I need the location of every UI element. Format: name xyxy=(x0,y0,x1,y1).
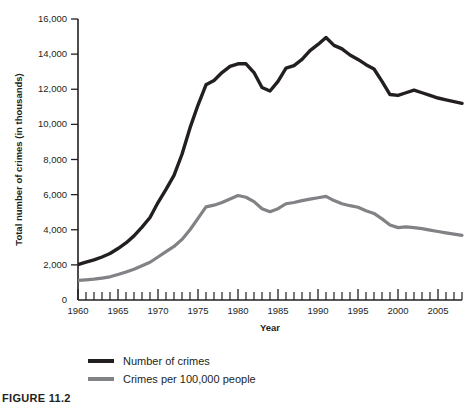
y-tick-label: 0 xyxy=(62,294,67,305)
figure-root: 02,0004,0006,0008,00010,00012,00014,0001… xyxy=(0,0,476,404)
line-chart: 02,0004,0006,0008,00010,00012,00014,0001… xyxy=(0,0,476,340)
y-axis-title: Total number of crimes (in thousands) xyxy=(13,73,24,245)
legend-item-crimes-per-100000: Crimes per 100,000 people xyxy=(88,370,428,388)
x-tick-label: 2005 xyxy=(427,305,448,316)
x-axis-title: Year xyxy=(260,322,280,333)
x-tick-label: 1975 xyxy=(187,305,208,316)
y-tick-label: 14,000 xyxy=(38,48,67,59)
y-tick-label: 16,000 xyxy=(38,13,67,24)
series-line-1 xyxy=(78,196,462,281)
legend-swatch-black xyxy=(88,359,114,363)
y-tick-label: 6,000 xyxy=(43,189,67,200)
x-tick-label: 1980 xyxy=(227,305,248,316)
legend-swatch-gray xyxy=(88,377,114,381)
chart-legend: Number of crimes Crimes per 100,000 peop… xyxy=(88,352,428,388)
x-tick-label: 1990 xyxy=(307,305,328,316)
y-tick-label: 4,000 xyxy=(43,224,67,235)
x-tick-label: 1995 xyxy=(347,305,368,316)
legend-label-number-of-crimes: Number of crimes xyxy=(123,355,210,367)
chart-canvas: 02,0004,0006,0008,00010,00012,00014,0001… xyxy=(0,0,476,340)
y-tick-label: 2,000 xyxy=(43,259,67,270)
y-tick-label: 8,000 xyxy=(43,154,67,165)
x-tick-label: 1985 xyxy=(267,305,288,316)
figure-caption: FIGURE 11.2 xyxy=(2,392,71,404)
y-tick-label: 12,000 xyxy=(38,83,67,94)
y-tick-label: 10,000 xyxy=(38,118,67,129)
x-tick-label: 1965 xyxy=(107,305,128,316)
series-line-0 xyxy=(78,37,462,264)
legend-item-number-of-crimes: Number of crimes xyxy=(88,352,428,370)
legend-label-crimes-per-100000: Crimes per 100,000 people xyxy=(123,373,256,385)
x-tick-label: 1960 xyxy=(67,305,88,316)
x-tick-label: 1970 xyxy=(147,305,168,316)
x-tick-label: 2000 xyxy=(387,305,408,316)
